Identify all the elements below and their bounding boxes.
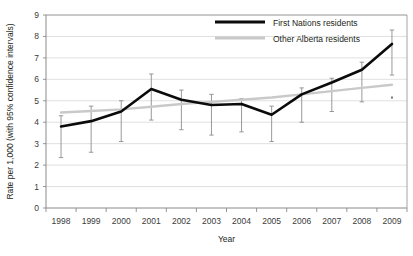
legend-label-first-nations: First Nations residents [273, 18, 358, 28]
x-tick-label: 2005 [262, 216, 281, 226]
x-tick-label: 1999 [82, 216, 101, 226]
x-tick-label: 2008 [352, 216, 371, 226]
x-tick-label: 2003 [202, 216, 221, 226]
y-tick-label: 4 [34, 117, 39, 127]
y-tick-label: 2 [34, 160, 39, 170]
x-tick-label: 2007 [322, 216, 341, 226]
y-tick-label: 9 [34, 10, 39, 20]
chart-canvas: 0123456789199819992000200120022003200420… [0, 0, 413, 256]
y-tick-label: 5 [34, 96, 39, 106]
y-tick-label: 0 [34, 203, 39, 213]
x-tick-label: 2001 [142, 216, 161, 226]
legend-label-other-alberta: Other Alberta residents [273, 34, 360, 44]
y-tick-label: 1 [34, 182, 39, 192]
x-tick-label: 2000 [112, 216, 131, 226]
y-tick-label: 6 [34, 74, 39, 84]
x-tick-label: 1998 [52, 216, 71, 226]
y-tick-label: 7 [34, 53, 39, 63]
series-line-other-alberta [61, 85, 392, 113]
x-tick-label: 2004 [232, 216, 251, 226]
line-chart: 0123456789199819992000200120022003200420… [0, 0, 413, 256]
series-line-first-nations [61, 44, 392, 127]
x-tick-label: 2002 [172, 216, 191, 226]
y-axis-title: Rate per 1,000 (with 95% confidence inte… [5, 23, 15, 199]
x-tick-label: 2009 [382, 216, 401, 226]
x-tick-label: 2006 [292, 216, 311, 226]
y-tick-label: 3 [34, 139, 39, 149]
x-axis-title: Year [218, 234, 235, 244]
y-tick-label: 8 [34, 31, 39, 41]
